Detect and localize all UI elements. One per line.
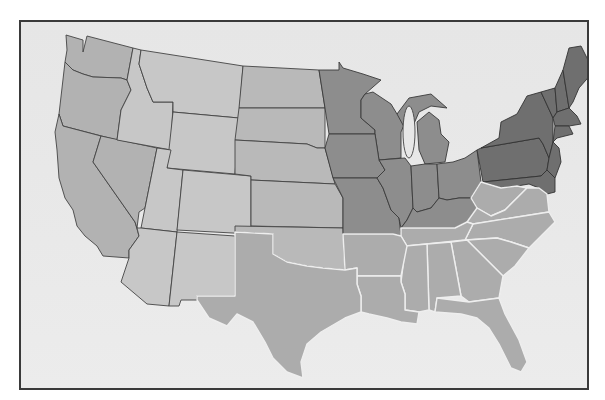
state-co [177,170,251,234]
state-wy [167,112,239,174]
state-ks [251,180,343,228]
lake-michigan [403,106,415,158]
region-midwest [319,62,481,236]
state-ia [325,134,385,178]
map-frame [19,20,589,390]
state-fl [435,298,527,372]
region-northeast [477,46,587,194]
us-map [21,22,587,388]
state-nm [169,232,235,306]
state-nd [239,66,325,108]
state-ct-ri [553,126,573,142]
